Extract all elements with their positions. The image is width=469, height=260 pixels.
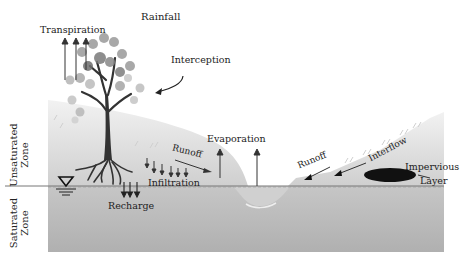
diagram-graphics bbox=[0, 0, 469, 260]
rainfall-label: Rainfall bbox=[141, 12, 180, 22]
transpiration-arrows bbox=[62, 38, 89, 80]
evaporation-label: Evaporation bbox=[207, 134, 266, 144]
impervious-label-line2: Layer bbox=[420, 176, 448, 186]
transpiration-label: Transpiration bbox=[40, 25, 106, 35]
unsaturated-zone-line1: Unsaturated bbox=[9, 120, 20, 190]
recharge-label: Recharge bbox=[108, 201, 154, 211]
saturated-zone-line2: Zone bbox=[20, 194, 31, 252]
unsaturated-zone-line2: Zone bbox=[20, 120, 31, 190]
impervious-label-line1: Impervious bbox=[405, 162, 459, 172]
interception-label: Interception bbox=[171, 55, 231, 65]
hydrologic-cycle-diagram: Rainfall Transpiration Interception Evap… bbox=[0, 0, 469, 260]
saturated-zone-line1: Saturated bbox=[9, 194, 20, 252]
saturated-zone-label: Saturated Zone bbox=[9, 194, 37, 252]
unsaturated-zone-label: Unsaturated Zone bbox=[9, 120, 37, 190]
recharge-arrows bbox=[122, 182, 140, 197]
infiltration-label: Infiltration bbox=[148, 178, 200, 188]
